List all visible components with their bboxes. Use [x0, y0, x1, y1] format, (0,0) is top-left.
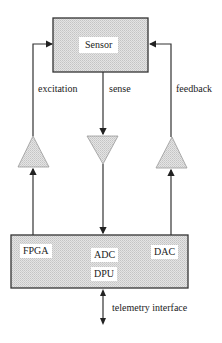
- feedback-label: feedback: [176, 83, 212, 95]
- telemetry-interface-label: telemetry interface: [112, 302, 187, 314]
- telemetry-arrow-up-icon: [100, 289, 106, 296]
- fpga-label: FPGA: [20, 244, 52, 258]
- telemetry-arrow-down-icon: [100, 318, 106, 325]
- dac-label: DAC: [151, 245, 178, 259]
- dpu-label: DPU: [91, 267, 117, 281]
- sense-label: sense: [109, 83, 131, 95]
- sense-amplifier-icon: [87, 136, 118, 164]
- sensor-label: Sensor: [79, 37, 118, 53]
- excitation-amplifier-icon: [18, 136, 49, 167]
- feedback-amplifier-icon: [156, 137, 187, 168]
- excitation-label: excitation: [38, 83, 77, 95]
- feedback-line: [150, 44, 171, 137]
- adc-label: ADC: [91, 248, 118, 262]
